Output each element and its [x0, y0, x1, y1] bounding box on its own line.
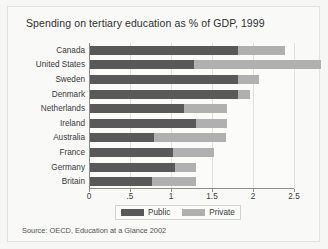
category-label: Denmark: [52, 90, 85, 99]
legend-item-private: Private: [182, 208, 234, 217]
bar-row: [89, 148, 294, 157]
legend-label-private: Private: [209, 208, 234, 217]
chart-figure: Spending on tertiary education as % of G…: [0, 0, 328, 249]
category-label: Netherlands: [41, 104, 85, 113]
category-axis-labels: CanadaUnited StatesSwedenDenmarkNetherla…: [0, 43, 85, 189]
bar-row: [89, 60, 294, 69]
bar-segment-private: [238, 75, 259, 84]
bar-row: [89, 75, 294, 84]
bar-segment-private: [196, 119, 226, 128]
bar-segment-public: [89, 75, 238, 84]
category-label: Britain: [62, 177, 85, 186]
bar-row: [89, 46, 294, 55]
bar-segment-public: [89, 163, 175, 172]
bar-segment-private: [238, 90, 249, 99]
bar-row: [89, 90, 294, 99]
bar-segment-public: [89, 148, 173, 157]
source-note: Source: OECD, Education at a Glance 2002: [22, 226, 166, 235]
bar-segment-public: [89, 104, 184, 113]
chart-legend: Public Private: [115, 205, 241, 220]
category-label: Australia: [53, 133, 85, 142]
tick-label: 0: [87, 192, 92, 201]
bar-segment-private: [175, 163, 196, 172]
bar-row: [89, 163, 294, 172]
tick-label: 1.5: [206, 192, 217, 201]
bar-segment-public: [89, 90, 238, 99]
bar-row: [89, 177, 294, 186]
bar-segment-private: [194, 60, 321, 69]
bar-segment-private: [152, 177, 196, 186]
legend-label-public: Public: [148, 208, 170, 217]
bar-segment-public: [89, 60, 194, 69]
legend-swatch-private-icon: [182, 209, 205, 216]
legend-swatch-public-icon: [121, 209, 144, 216]
tick-label: .5: [127, 192, 134, 201]
bar-segment-public: [89, 46, 238, 55]
bar-segment-private: [238, 46, 285, 55]
bar-segment-public: [89, 177, 152, 186]
bar-segment-public: [89, 119, 196, 128]
bar-row: [89, 133, 294, 142]
bar-row: [89, 104, 294, 113]
legend-item-public: Public: [121, 208, 170, 217]
category-label: Sweden: [55, 75, 85, 84]
plot-area: [89, 43, 294, 189]
category-label: Ireland: [60, 119, 85, 128]
tick-label: 2.5: [288, 192, 299, 201]
category-label: Germany: [51, 163, 85, 172]
category-label: United States: [36, 60, 85, 69]
chart-title: Spending on tertiary education as % of G…: [26, 17, 265, 29]
tick-label: 1: [169, 192, 174, 201]
y-axis-line: [89, 43, 90, 189]
bar-segment-private: [154, 133, 226, 142]
bar-segment-public: [89, 133, 154, 142]
tick-label: 2: [251, 192, 256, 201]
bar-row: [89, 119, 294, 128]
category-label: Canada: [56, 46, 85, 55]
x-axis-tick-labels: 0.511.522.5: [89, 192, 294, 204]
category-label: France: [60, 148, 85, 157]
bar-segment-private: [184, 104, 227, 113]
bar-segment-private: [173, 148, 215, 157]
